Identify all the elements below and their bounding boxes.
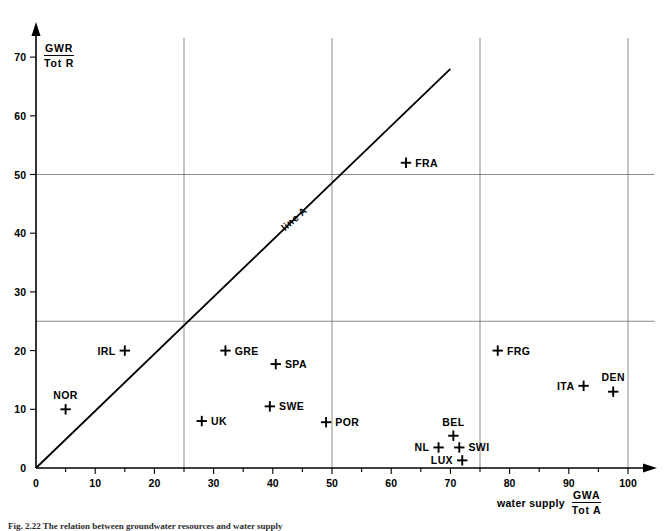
y-axis-label-denominator: Tot R — [44, 56, 74, 69]
y-tick-label-10: 10 — [14, 403, 26, 415]
data-point-label-por: POR — [335, 416, 359, 428]
data-point-label-frg: FRG — [507, 345, 530, 357]
data-point-spa: SPA — [271, 358, 307, 370]
x-tick-label-20: 20 — [149, 477, 161, 489]
x-tick-label-30: 30 — [208, 477, 220, 489]
data-point-swi: SWI — [454, 441, 489, 453]
data-point-label-uk: UK — [211, 415, 227, 427]
data-point-label-swe: SWE — [279, 400, 304, 412]
x-tick-label-40: 40 — [267, 477, 279, 489]
data-point-label-den: DEN — [602, 371, 625, 383]
data-point-lux: LUX — [431, 454, 468, 466]
y-tick-label-30: 30 — [14, 286, 26, 298]
x-axis-label: water supply GWA Tot A — [497, 489, 601, 516]
gridlines — [36, 38, 655, 468]
y-tick-label-70: 70 — [14, 51, 26, 63]
data-point-label-nor: NOR — [53, 389, 78, 401]
reference-line-a: line A — [36, 69, 450, 468]
data-point-bel: BEL — [442, 416, 464, 441]
x-axis-label-text: water supply — [497, 497, 565, 509]
data-point-swe: SWE — [265, 400, 305, 412]
x-tick-label-50: 50 — [326, 477, 338, 489]
data-points: NORIRLUKGRESPASWEPORFRANLBELSWILUXFRGITA… — [53, 157, 625, 467]
data-point-label-bel: BEL — [442, 416, 464, 428]
x-tick-label-10: 10 — [89, 477, 101, 489]
figure-container: 0102030405060708090100010203040506070 li… — [0, 0, 667, 531]
data-point-nl: NL — [415, 441, 444, 453]
x-axis-label-numerator: GWA — [572, 489, 602, 503]
data-point-label-irl: IRL — [97, 345, 115, 357]
data-point-label-lux: LUX — [431, 454, 453, 466]
x-axis-label-fraction: GWA Tot A — [572, 489, 602, 516]
axis-ticks — [30, 57, 628, 474]
x-tick-label-90: 90 — [563, 477, 575, 489]
data-point-label-swi: SWI — [468, 441, 489, 453]
data-point-frg: FRG — [493, 345, 531, 357]
data-point-fra: FRA — [401, 157, 438, 169]
data-point-label-spa: SPA — [285, 358, 307, 370]
x-tick-label-0: 0 — [33, 477, 39, 489]
data-point-por: POR — [321, 416, 359, 428]
line-a-label: line A — [279, 205, 309, 233]
y-tick-label-40: 40 — [14, 227, 26, 239]
y-axis-arrow — [32, 22, 41, 36]
y-tick-label-60: 60 — [14, 110, 26, 122]
data-point-gre: GRE — [220, 345, 258, 357]
x-tick-label-70: 70 — [445, 477, 457, 489]
data-point-uk: UK — [197, 415, 227, 427]
data-point-irl: IRL — [97, 345, 130, 357]
y-tick-label-50: 50 — [14, 169, 26, 181]
x-axis-label-denominator: Tot A — [572, 503, 602, 516]
scatter-plot: 0102030405060708090100010203040506070 li… — [0, 0, 667, 531]
y-axis-label: GWR Tot R — [44, 42, 74, 69]
x-tick-label-60: 60 — [385, 477, 397, 489]
x-tick-label-80: 80 — [504, 477, 516, 489]
data-point-label-gre: GRE — [235, 345, 259, 357]
line-a — [36, 69, 450, 468]
x-tick-label-100: 100 — [619, 477, 637, 489]
data-point-label-fra: FRA — [415, 157, 438, 169]
data-point-ita: ITA — [557, 380, 589, 392]
y-tick-label-20: 20 — [14, 345, 26, 357]
y-tick-label-0: 0 — [20, 462, 26, 474]
data-point-den: DEN — [602, 371, 625, 396]
figure-caption: Fig. 2.22 The relation between groundwat… — [8, 521, 428, 531]
x-axis-arrow — [643, 464, 657, 473]
data-point-nor: NOR — [53, 389, 78, 414]
axes — [32, 22, 658, 473]
data-point-label-nl: NL — [415, 441, 430, 453]
y-axis-label-numerator: GWR — [44, 42, 74, 56]
data-point-label-ita: ITA — [557, 380, 574, 392]
